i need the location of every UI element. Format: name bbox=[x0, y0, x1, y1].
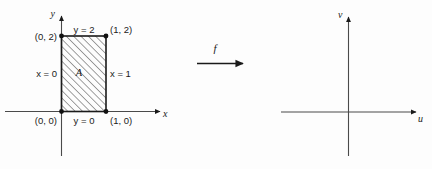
region-a-label: A bbox=[75, 67, 83, 78]
figure-canvas: y x A y = 2 y = 0 x = 0 x = 1 (0, 2) (1,… bbox=[0, 0, 432, 169]
u-axis-label: u bbox=[418, 113, 423, 124]
vertex-label-bottom-left: (0, 0) bbox=[35, 115, 57, 126]
codomain-plot: v u bbox=[281, 9, 423, 156]
y-axis-label: y bbox=[50, 8, 56, 19]
domain-plot: y x A y = 2 y = 0 x = 0 x = 1 (0, 2) (1,… bbox=[5, 8, 168, 156]
edge-label-right: x = 1 bbox=[110, 68, 131, 79]
vertex-label-bottom-right: (1, 0) bbox=[110, 115, 132, 126]
edge-label-top: y = 2 bbox=[74, 24, 95, 35]
vertex-dot-bottom-left bbox=[59, 109, 64, 114]
vertex-dot-top-left bbox=[59, 34, 64, 39]
mapping-label: f bbox=[213, 42, 218, 54]
x-axis-label: x bbox=[162, 108, 168, 119]
vertex-label-top-left: (0, 2) bbox=[35, 31, 57, 42]
v-axis-label: v bbox=[338, 9, 343, 20]
edge-label-bottom: y = 0 bbox=[74, 115, 95, 126]
region-a-fill bbox=[62, 36, 107, 112]
transformation-figure: y x A y = 2 y = 0 x = 0 x = 1 (0, 2) (1,… bbox=[0, 0, 432, 169]
edge-label-left: x = 0 bbox=[36, 68, 57, 79]
vertex-dot-top-right bbox=[104, 34, 109, 39]
vertex-label-top-right: (1, 2) bbox=[110, 24, 132, 35]
mapping-arrow-group: f bbox=[197, 42, 243, 64]
vertex-dot-bottom-right bbox=[104, 109, 109, 114]
